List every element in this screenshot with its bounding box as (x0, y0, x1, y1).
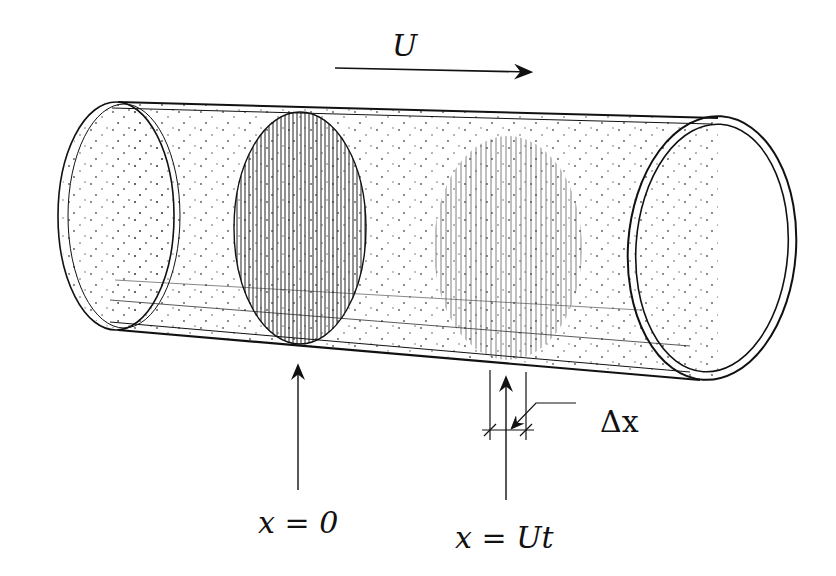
pipe (58, 102, 805, 386)
delta-x-label: Δx (600, 404, 639, 439)
delta-x-dimension (482, 370, 576, 440)
flow-arrow (335, 68, 530, 72)
cross-section-origin (234, 112, 366, 344)
cross-section-displaced (434, 136, 582, 360)
flow-velocity-label: U (392, 28, 419, 63)
pipe-diagram: U Δx x = 0 x = Ut (0, 0, 836, 576)
position-label: x = Ut (455, 520, 554, 555)
origin-label: x = 0 (258, 505, 338, 540)
